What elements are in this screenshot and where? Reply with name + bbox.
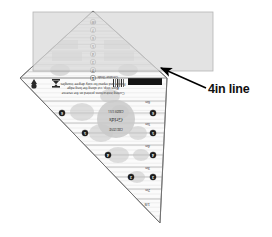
logo-line: GRIDS USA xyxy=(108,109,123,113)
printed-smudge xyxy=(133,149,149,161)
side-marker-label: 6 xyxy=(61,111,63,115)
instruction-line: Cutting instructions printed on the reve… xyxy=(62,91,125,95)
right-marker: 6 xyxy=(150,110,156,116)
right-marker-label: 5 xyxy=(152,131,154,135)
right-marker-label: 6 xyxy=(152,111,154,115)
printed-smudge xyxy=(70,103,94,121)
right-marker-label: 3 xyxy=(152,175,154,179)
side-marker-label: 5 xyxy=(84,131,86,135)
maker-logo-badge: CREATIVEGridsGRIDS USA xyxy=(97,100,135,138)
edge-scale-label: 6in xyxy=(145,100,150,104)
hourglass-icon-base xyxy=(52,86,60,88)
side-marker-label: 4 xyxy=(107,153,109,157)
instruction-line: Align strip, cut along the long edge xyxy=(67,86,119,90)
center-marker-label: 1 xyxy=(92,76,94,80)
side-marker: 3 xyxy=(128,174,134,180)
logo-line: Grids xyxy=(109,117,123,123)
side-marker: 6 xyxy=(59,110,65,116)
edge-scale-label: 3in xyxy=(145,166,150,170)
edge-scale-label: 5in xyxy=(145,122,150,126)
ruler-illustration: Cutting instructions printed on the reve… xyxy=(0,0,272,237)
grey-highlight-rectangle xyxy=(33,12,213,71)
logo-text: CREATIVEGridsGRIDS USA xyxy=(108,109,123,131)
annotation-label-4in-line: 4in line xyxy=(208,82,249,96)
bottom-tip-label: 1/8 xyxy=(144,202,150,207)
right-marker: 3 xyxy=(150,174,156,180)
right-marker-label: 4 xyxy=(152,153,154,157)
screenshot-canvas: Cutting instructions printed on the reve… xyxy=(0,0,272,237)
edge-scale-label: 4in xyxy=(145,144,150,148)
side-marker: 5 xyxy=(82,130,88,136)
right-marker: 4 xyxy=(150,152,156,158)
instruction-text-block: Cutting instructions printed on the reve… xyxy=(60,82,125,95)
hourglass-icon xyxy=(52,79,60,81)
side-marker-label: 3 xyxy=(130,175,132,179)
black-label-band xyxy=(128,78,162,85)
instruction-line: Rotate and repeat for sixty degree trian… xyxy=(60,82,125,86)
logo-line: CREATIVE xyxy=(109,127,123,131)
triangle-icon-dot xyxy=(31,83,36,88)
right-marker: 5 xyxy=(150,130,156,136)
edge-scale-label: 2in xyxy=(145,188,150,192)
side-marker: 4 xyxy=(105,152,111,158)
